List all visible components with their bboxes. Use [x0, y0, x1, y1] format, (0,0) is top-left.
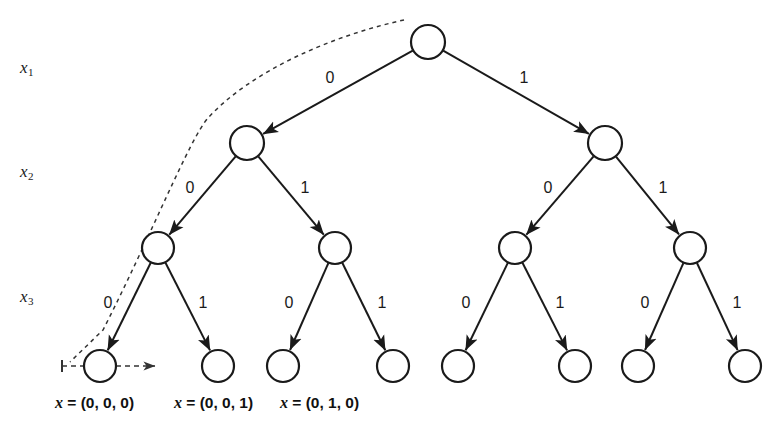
tree-node [319, 232, 351, 264]
caption-variable: x [280, 394, 288, 411]
axis-label-subscript: 2 [28, 170, 34, 182]
caption-value: = (0, 0, 0) [63, 394, 134, 411]
tree-node [411, 25, 445, 59]
tree-edge [645, 263, 683, 350]
axis-label-x3: x3 [20, 287, 33, 307]
edge-label: 0 [326, 69, 335, 86]
edge-label: 1 [301, 179, 310, 196]
tree-node [499, 232, 531, 264]
edge-label: 1 [733, 294, 742, 311]
edge-label: 1 [378, 294, 387, 311]
axis-label-x1: x1 [20, 58, 33, 78]
tree-edge [443, 51, 589, 134]
tree-edge-labels: 01010101010101 [104, 69, 742, 311]
traversal-path-group [62, 20, 404, 372]
tree-node [230, 126, 264, 160]
axis-label-base: x [20, 287, 28, 306]
axis-label-subscript: 3 [28, 295, 34, 307]
edge-label: 0 [641, 294, 650, 311]
axis-label-x2: x2 [20, 162, 33, 182]
tree-edge [290, 263, 328, 350]
edge-label: 0 [462, 294, 471, 311]
tree-node [588, 126, 622, 160]
tree-edge [697, 263, 738, 350]
caption-value: = (0, 0, 1) [182, 394, 253, 411]
tree-node [674, 232, 706, 264]
edge-label: 1 [520, 69, 529, 86]
tree-edge [263, 51, 413, 134]
edge-label: 1 [659, 179, 668, 196]
edge-label: 0 [186, 179, 195, 196]
leaf-node [729, 350, 761, 382]
decision-tree-figure: 01010101010101 x1x2x3 x = (0, 0, 0)x = (… [0, 0, 782, 441]
tree-edge [616, 157, 679, 235]
traversal-path-curve [70, 20, 404, 362]
edge-label: 0 [285, 294, 294, 311]
tree-edge [258, 156, 324, 234]
caption-variable: x [174, 394, 182, 411]
tree-edge [466, 263, 508, 350]
caption-000: x = (0, 0, 0) [55, 394, 134, 412]
leaf-node [442, 350, 474, 382]
edge-label: 0 [544, 179, 553, 196]
edge-label: 1 [199, 294, 208, 311]
axis-label-subscript: 1 [28, 66, 34, 78]
axis-label-base: x [20, 162, 28, 181]
tree-diagram-canvas: 01010101010101 [0, 0, 782, 441]
edge-label: 0 [104, 294, 113, 311]
axis-label-base: x [20, 58, 28, 77]
leaf-node [84, 350, 116, 382]
caption-variable: x [55, 394, 63, 411]
caption-010: x = (0, 1, 0) [280, 394, 359, 412]
leaf-node [559, 350, 591, 382]
tree-edge [526, 156, 593, 234]
leaf-node [267, 350, 299, 382]
edge-label: 1 [556, 294, 565, 311]
leaf-node [622, 350, 654, 382]
caption-001: x = (0, 0, 1) [174, 394, 253, 412]
caption-value: = (0, 1, 0) [288, 394, 359, 411]
tree-nodes [84, 25, 761, 382]
leaf-node [202, 350, 234, 382]
leaf-node [377, 350, 409, 382]
tree-node [142, 232, 174, 264]
